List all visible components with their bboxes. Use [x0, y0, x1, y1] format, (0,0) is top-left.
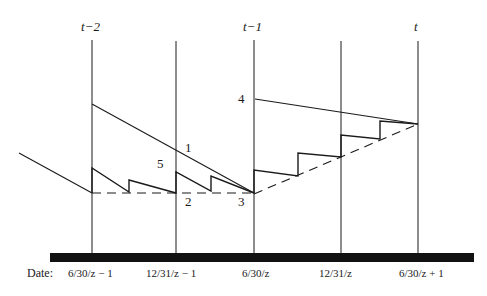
point-label-1: 1	[185, 141, 192, 154]
dashed-rising-baseline	[254, 124, 418, 194]
left-incoming-line	[19, 153, 92, 193]
vertical-date-lines	[92, 40, 418, 256]
step-path-period-2	[254, 121, 418, 193]
period-label-t-2: t−2	[81, 20, 100, 33]
period-label-t-1: t−1	[243, 20, 262, 33]
date-label-3: 12/31/z	[319, 267, 352, 279]
line-1	[92, 104, 254, 193]
date-axis-bar	[50, 253, 474, 262]
sawtooth-path-period-1	[92, 168, 254, 193]
date-label-1: 12/31/z − 1	[146, 267, 196, 279]
timeline-diagram	[0, 0, 487, 296]
period-label-t: t	[414, 20, 418, 33]
date-label-4: 6/30/z + 1	[399, 267, 444, 279]
point-label-5: 5	[157, 157, 164, 170]
date-label-0: 6/30/z − 1	[68, 267, 113, 279]
date-axis-title: Date:	[27, 266, 53, 281]
line-4	[255, 99, 418, 124]
point-label-2: 2	[185, 195, 192, 208]
date-label-2: 6/30/z	[242, 267, 270, 279]
point-label-4: 4	[238, 92, 245, 105]
point-label-3: 3	[238, 195, 245, 208]
